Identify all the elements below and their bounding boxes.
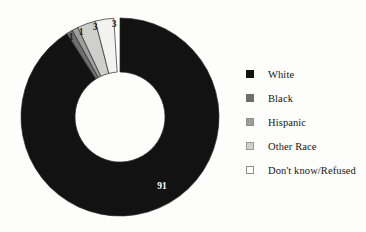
legend-item[interactable]: White [246, 62, 366, 86]
legend-item[interactable]: Black [246, 86, 366, 110]
legend-swatch-icon [246, 94, 254, 102]
donut-slice[interactable] [21, 18, 219, 216]
donut-data-label: 3 [93, 22, 98, 32]
legend-item[interactable]: Hispanic [246, 110, 366, 134]
donut-chart-figure: 911133 WhiteBlackHispanicOther RaceDon't… [0, 0, 366, 232]
legend-item-label: Black [268, 93, 293, 104]
legend-item-label: Don't know/Refused [268, 165, 356, 176]
donut-data-label: 3 [112, 19, 117, 29]
legend-item-label: Other Race [268, 141, 317, 152]
donut-slice-group [21, 18, 219, 216]
donut-data-label: 91 [157, 181, 167, 191]
donut-svg: 911133 [0, 0, 232, 232]
legend-swatch-icon [246, 70, 254, 78]
legend-item-label: White [268, 69, 294, 80]
legend-swatch-icon [246, 142, 254, 150]
legend-item[interactable]: Other Race [246, 134, 366, 158]
donut-data-label: 1 [69, 32, 74, 42]
legend-swatch-icon [246, 166, 254, 174]
donut-plot-area: 911133 [0, 0, 232, 232]
legend-item-label: Hispanic [268, 117, 306, 128]
legend-item[interactable]: Don't know/Refused [246, 158, 366, 182]
legend-swatch-icon [246, 118, 254, 126]
legend: WhiteBlackHispanicOther RaceDon't know/R… [246, 62, 366, 182]
donut-data-label: 1 [79, 27, 84, 37]
